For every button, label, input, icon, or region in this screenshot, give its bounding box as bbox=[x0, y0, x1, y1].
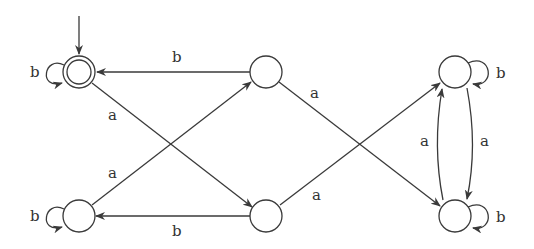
label-q3-loop: b bbox=[30, 207, 40, 225]
label-q0-loop: b bbox=[30, 63, 40, 81]
label-q2-q5: a bbox=[480, 132, 489, 150]
label-q1-q0: b bbox=[172, 48, 182, 66]
label-q4-q3: b bbox=[172, 222, 182, 240]
edge-q3-loop bbox=[46, 207, 64, 228]
edge-q3-q1 bbox=[92, 82, 251, 205]
state-q0 bbox=[63, 56, 95, 88]
state-q4 bbox=[250, 200, 282, 232]
label-q5-q2: a bbox=[420, 132, 429, 150]
state-q2 bbox=[439, 56, 471, 88]
label-q0-q4: a bbox=[108, 106, 117, 124]
state-q1 bbox=[250, 56, 282, 88]
automaton-diagram: b b a a b b a a b b a a bbox=[0, 0, 534, 249]
label-q2-loop: b bbox=[496, 64, 506, 82]
edge-q0-loop bbox=[46, 63, 64, 84]
state-q3 bbox=[63, 200, 95, 232]
edge-q0-q4 bbox=[92, 83, 252, 207]
label-q4-q2: a bbox=[312, 186, 321, 204]
edge-q5-q2 bbox=[438, 89, 443, 200]
label-q3-q1: a bbox=[108, 164, 117, 182]
edge-q2-q5 bbox=[467, 88, 472, 199]
label-q1-q5: a bbox=[310, 84, 319, 102]
state-q5 bbox=[439, 200, 471, 232]
label-q5-loop: b bbox=[496, 208, 506, 226]
